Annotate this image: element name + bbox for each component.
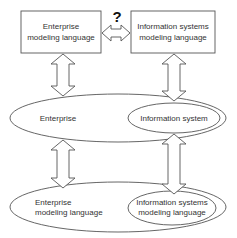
information-systems-modeling-language-box: Information systems modeling language	[131, 11, 215, 53]
information-systems-modeling-language-ellipse: Information systems modeling language	[128, 191, 216, 225]
box-label-line1: Information systems	[137, 22, 209, 31]
vertical-double-arrow-icon	[162, 54, 186, 101]
ellipse-label-line1: Information systems	[136, 198, 208, 207]
ellipse-label: Enterprise	[40, 114, 77, 123]
ellipse-label: Information system	[140, 114, 208, 123]
vertical-double-arrow-icon	[162, 134, 186, 194]
box-label-line2: modeling language	[27, 33, 95, 42]
information-system-ellipse: Information system	[128, 103, 220, 133]
vertical-double-arrow-icon	[51, 140, 75, 188]
box-label-line2: modeling language	[139, 33, 207, 42]
box-label-line1: Enterprise	[43, 22, 80, 31]
vertical-double-arrow-icon	[51, 54, 75, 96]
enterprise-modeling-language-box: Enterprise modeling language	[21, 11, 101, 53]
horizontal-double-arrow-icon	[102, 25, 130, 41]
ellipse-label-line2: modeling language	[35, 208, 103, 217]
diagram-canvas: Enterprise modeling language Information…	[0, 0, 237, 238]
ellipse-label-line2: modeling language	[138, 208, 206, 217]
ellipse-label-line1: Enterprise	[35, 198, 72, 207]
question-mark: ?	[112, 8, 121, 25]
